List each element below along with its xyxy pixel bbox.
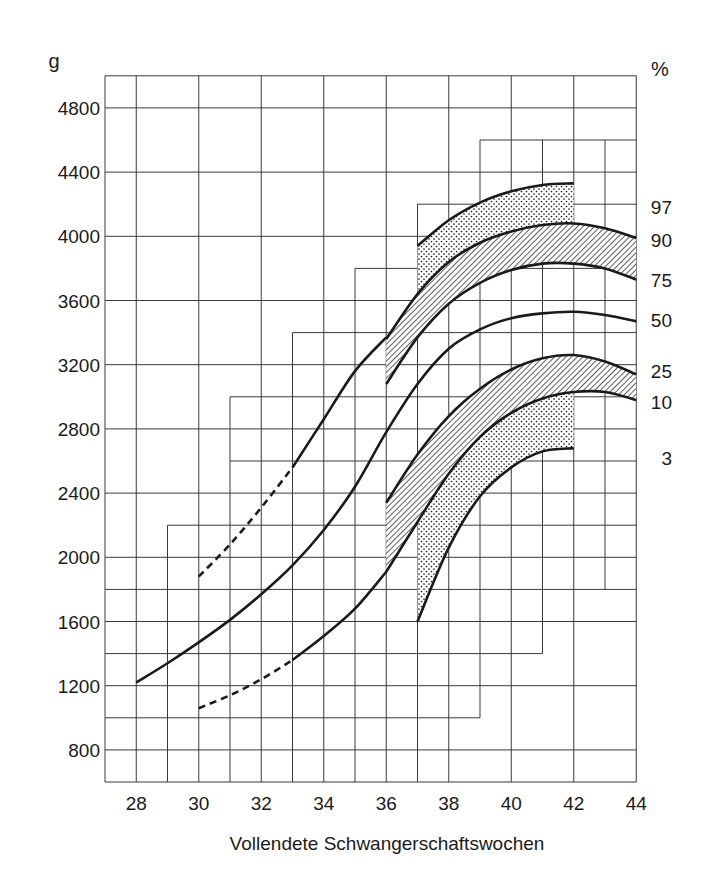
percentile-label: 50 <box>651 310 672 331</box>
percentile-label: 90 <box>651 230 672 251</box>
percentile-97-lower <box>293 337 387 467</box>
x-tick-label: 44 <box>626 793 648 814</box>
percentile-label: 25 <box>651 361 672 382</box>
x-tick-label: 30 <box>188 793 209 814</box>
right-unit-label: % <box>651 58 669 80</box>
x-tick-label: 34 <box>313 793 335 814</box>
x-tick-label: 42 <box>563 793 584 814</box>
x-tick-label: 40 <box>501 793 522 814</box>
y-tick-label: 2800 <box>58 419 100 440</box>
y-tick-label: 4800 <box>58 98 100 119</box>
percentile-10-dashed <box>199 660 293 708</box>
y-tick-label: 1600 <box>58 612 100 633</box>
x-tick-label: 36 <box>376 793 397 814</box>
y-tick-label: 2000 <box>58 547 100 568</box>
y-tick-label: 2400 <box>58 483 100 504</box>
percentile-label: 10 <box>651 392 672 413</box>
percentile-label: 3 <box>661 448 672 469</box>
percentile-label: 75 <box>651 270 672 291</box>
y-tick-label: 3600 <box>58 291 100 312</box>
y-tick-label: 800 <box>68 740 100 761</box>
y-tick-label: 3200 <box>58 355 100 376</box>
x-axis-title: Vollendete Schwangerschaftswochen <box>230 833 545 854</box>
x-axis-ticks: 283032343638404244 <box>126 793 648 814</box>
percentile-97-dashed <box>199 467 293 576</box>
percentile-chart: g % 480044004000360032002800240020001600… <box>0 0 717 887</box>
y-unit-label: g <box>48 50 59 72</box>
y-axis-ticks: 4800440040003600320028002400200016001200… <box>58 98 100 761</box>
percentile-labels: 9790755025103 <box>651 197 672 468</box>
x-tick-label: 38 <box>438 793 459 814</box>
y-tick-label: 4000 <box>58 226 100 247</box>
y-tick-label: 1200 <box>58 676 100 697</box>
y-tick-label: 4400 <box>58 162 100 183</box>
x-tick-label: 32 <box>251 793 272 814</box>
percentile-label: 97 <box>651 197 672 218</box>
x-tick-label: 28 <box>126 793 147 814</box>
percentile-10-lower <box>293 572 387 660</box>
